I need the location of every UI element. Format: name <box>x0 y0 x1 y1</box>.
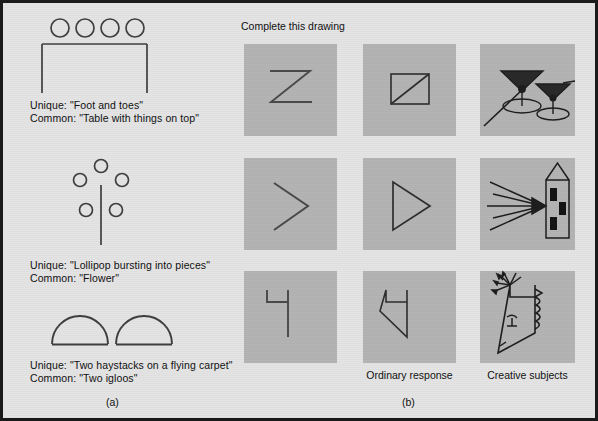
drawing-two-igloos <box>41 303 201 353</box>
caption-unique-2: Unique: "Lollipop bursting into pieces" <box>30 259 210 272</box>
caption-common-3: Common: "Two igloos" <box>30 372 138 385</box>
panel-b-letter: (b) <box>402 396 415 408</box>
cell-ordinary-row3 <box>363 271 456 363</box>
caption-unique-1: Unique: "Foot and toes" <box>30 99 143 112</box>
panel-a-letter: (a) <box>106 396 119 408</box>
drawing-table-with-things-on-top <box>31 17 191 95</box>
column-label-creative-subjects: Creative subjects <box>480 369 575 381</box>
drawing-flower <box>63 149 183 249</box>
drawing-two-martini-glasses <box>480 44 575 136</box>
drawing-rocket-with-speed-lines <box>480 158 575 250</box>
caption-common-1: Common: "Table with things on top" <box>30 112 199 125</box>
caption-common-2: Common: "Flower" <box>30 272 119 285</box>
panel-b: Complete this drawing <box>235 3 595 418</box>
drawing-flag-hook-line <box>244 271 337 363</box>
cell-stimulus-row1 <box>244 44 337 136</box>
drawing-triangle <box>363 158 456 250</box>
drawing-chevron-arrowhead <box>244 158 337 250</box>
figure-container: Unique: "Foot and toes" Common: "Table w… <box>0 0 598 421</box>
prompt-complete-this-drawing: Complete this drawing <box>241 20 345 32</box>
cell-stimulus-row2 <box>244 158 337 250</box>
cell-ordinary-row2 <box>363 158 456 250</box>
drawing-square-with-diagonal <box>363 44 456 136</box>
panel-a: Unique: "Foot and toes" Common: "Table w… <box>3 3 235 418</box>
column-label-ordinary-response: Ordinary response <box>363 369 456 381</box>
drawing-arrow-pentagon <box>363 271 456 363</box>
drawing-zigzag-z-line <box>244 44 337 136</box>
cell-creative-row1 <box>480 44 575 136</box>
cell-creative-row2 <box>480 158 575 250</box>
drawing-face-profile-kite <box>480 271 575 363</box>
caption-unique-3: Unique: "Two haystacks on a flying carpe… <box>30 359 233 372</box>
cell-stimulus-row3 <box>244 271 337 363</box>
cell-creative-row3 <box>480 271 575 363</box>
cell-ordinary-row1 <box>363 44 456 136</box>
